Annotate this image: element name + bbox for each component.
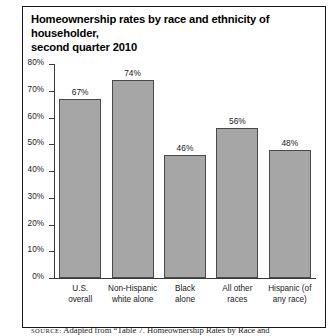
y-axis-tick-mark	[49, 278, 54, 279]
y-axis-tick-label: 70%	[4, 85, 44, 94]
bar-value-label: 48%	[269, 138, 311, 148]
y-axis-tick-label: 80%	[4, 58, 44, 67]
bar-value-label: 56%	[216, 116, 258, 126]
source-text: Adapted from “Table 7. Homeownership Rat…	[63, 325, 269, 335]
chart-title-line-1: Homeownership rates by race and ethnicit…	[31, 13, 269, 39]
bar-slot: 56%	[216, 64, 258, 278]
y-axis-tick-label: 30%	[4, 192, 44, 201]
y-axis-tick-label: 20%	[4, 219, 44, 228]
bar[interactable]	[216, 128, 258, 278]
bar[interactable]	[164, 155, 206, 278]
bar-series: 67%74%46%56%48%	[54, 64, 316, 278]
y-axis-tick-label: 50%	[4, 138, 44, 147]
bar-value-label: 46%	[164, 143, 206, 153]
bar-value-label: 67%	[59, 87, 101, 97]
x-axis-line	[54, 278, 316, 279]
bar[interactable]	[59, 99, 101, 278]
source-note: SOURCE: Adapted from “Table 7. Homeowner…	[31, 325, 323, 336]
bar[interactable]	[269, 150, 311, 278]
bar-slot: 48%	[269, 64, 311, 278]
x-axis-category-label-line: Hispanic (of	[259, 284, 321, 295]
page-title: Homeownership rates by race and ethnicit…	[31, 12, 321, 54]
bar[interactable]	[112, 80, 154, 278]
y-axis-tick-label: 0%	[4, 272, 44, 281]
chart-title-line-2: second quarter 2010	[31, 41, 137, 53]
y-axis-tick-label: 10%	[4, 245, 44, 254]
bar-slot: 46%	[164, 64, 206, 278]
bar-slot: 74%	[112, 64, 154, 278]
y-axis-tick-label: 60%	[4, 112, 44, 121]
chart-figure: Homeownership rates by race and ethnicit…	[0, 0, 334, 336]
source-kicker: SOURCE:	[31, 327, 62, 334]
y-axis-tick-label: 40%	[4, 165, 44, 174]
x-axis-category-label-line: any race)	[259, 295, 321, 306]
x-axis-category-label: Hispanic (ofany race)	[259, 284, 321, 305]
bar-slot: 67%	[59, 64, 101, 278]
bar-value-label: 74%	[112, 68, 154, 78]
